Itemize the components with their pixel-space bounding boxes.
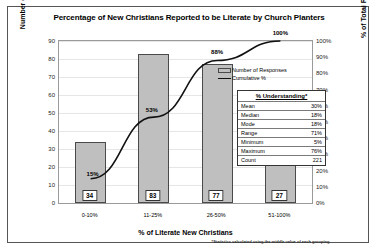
stats-table-row: Count221 — [238, 156, 325, 165]
stats-table: % Understanding* Mean30%Median18%Mode18%… — [237, 90, 326, 166]
y-tick-label-primary: 30 — [33, 146, 55, 152]
x-category-label: 11-25% — [144, 212, 163, 218]
stats-row-label: Range — [238, 129, 293, 138]
y-tick-label-primary: 10 — [33, 182, 55, 188]
bar-value-label: 83 — [145, 190, 160, 201]
cumulative-point-label: 100% — [273, 30, 288, 36]
y-axis-label-primary: Number of Responses — [19, 0, 26, 57]
stats-table-row: Maximum76% — [238, 147, 325, 156]
x-category-label: 0-10% — [82, 212, 98, 218]
legend-label-cumulative: Cumulative % — [232, 74, 266, 82]
stats-row-label: Count — [238, 156, 293, 165]
stats-row-value: 30% — [293, 102, 325, 111]
x-category-label: 51-100% — [268, 212, 290, 218]
stats-table-row: Range71% — [238, 129, 325, 138]
stats-row-value: 71% — [293, 129, 325, 138]
stats-row-value: 18% — [293, 120, 325, 129]
y-tick-label-primary: 70 — [33, 74, 55, 80]
y-tick-label-primary: 50 — [33, 110, 55, 116]
x-axis-label: % of Literate New Christians — [58, 229, 313, 236]
bar-value-label: 34 — [82, 190, 97, 201]
y-tick-label-secondary: 10% — [316, 184, 340, 190]
stats-table-row: Mode18% — [238, 120, 325, 129]
stats-row-label: Median — [238, 111, 293, 120]
y-tick-label-primary: 80 — [33, 56, 55, 62]
y-tick-label-primary: 40 — [33, 128, 55, 134]
stats-row-value: 221 — [293, 156, 325, 165]
chart-legend: Number of Responses Cumulative % — [218, 66, 287, 82]
y-tick-label-primary: 20 — [33, 164, 55, 170]
stats-row-value: 5% — [293, 138, 325, 147]
y-tick-label-primary: 90 — [33, 38, 55, 44]
legend-item-responses: Number of Responses — [218, 66, 287, 74]
bar-value-label: 27 — [272, 190, 287, 201]
stats-table-row: Median18% — [238, 111, 325, 120]
y-axis-label-secondary: % of Total Responses — [360, 0, 367, 67]
stats-table-grid: Mean30%Median18%Mode18%Range71%Minimum5%… — [238, 101, 325, 164]
bar-value-label: 77 — [209, 190, 224, 201]
chart-title: Percentage of New Christians Reported to… — [44, 13, 334, 23]
y-tick-label-secondary: 100% — [316, 38, 340, 44]
stats-row-label: Minimum — [238, 138, 293, 147]
y-tick-label-primary: 60 — [33, 92, 55, 98]
y-tick-label-secondary: 0% — [316, 200, 340, 206]
legend-line-swatch-icon — [218, 78, 231, 79]
stats-row-label: Mode — [238, 120, 293, 129]
stats-table-title: % Understanding* — [238, 93, 325, 101]
stats-row-label: Maximum — [238, 147, 293, 156]
legend-bar-swatch-icon — [218, 68, 231, 73]
stats-table-row: Minimum5% — [238, 138, 325, 147]
cumulative-point-label: 88% — [211, 49, 223, 55]
cumulative-point-label: 15% — [87, 171, 99, 177]
y-tick-label-secondary: 20% — [316, 168, 340, 174]
y-tick-label-secondary: 80% — [316, 70, 340, 76]
legend-label-responses: Number of Responses — [232, 66, 287, 74]
y-tick-label-primary: 0 — [33, 200, 55, 206]
legend-item-cumulative: Cumulative % — [218, 74, 287, 82]
stats-row-value: 76% — [293, 147, 325, 156]
x-category-label: 26-50% — [207, 212, 226, 218]
cumulative-point-label: 53% — [146, 107, 158, 113]
chart-frame: Percentage of New Christians Reported to… — [7, 6, 369, 243]
stats-row-value: 18% — [293, 111, 325, 120]
y-tick-label-secondary: 90% — [316, 54, 340, 60]
chart-footnote: *Statistics calculated using the middle … — [178, 239, 363, 244]
stats-table-row: Mean30% — [238, 102, 325, 111]
stats-row-label: Mean — [238, 102, 293, 111]
